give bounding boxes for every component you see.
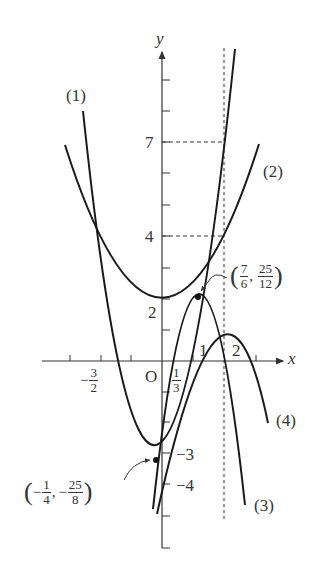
x-axis-label: x <box>288 350 296 367</box>
frac-den: 3 <box>172 381 181 395</box>
frac-num: 25 <box>258 262 273 277</box>
y-tick-label-2: 2 <box>148 304 157 321</box>
frac-den: 4 <box>42 493 51 507</box>
open-paren: ( <box>230 263 239 289</box>
x-tick-sign: − <box>80 373 88 388</box>
frac-den: 2 <box>89 381 98 395</box>
frac-num: 7 <box>240 262 249 277</box>
x-tick-label-1-3: 1 3 <box>171 366 182 394</box>
vertex-3-annotation: ( 7 6 , 25 12 ) <box>230 262 283 290</box>
vertex-1-annotation: ( − 1 4 , − 25 8 ) <box>24 478 93 506</box>
curve-label-1: (1) <box>66 87 86 104</box>
vertex-1-y: 25 8 <box>68 478 83 506</box>
x-tick-fraction: 1 3 <box>172 366 181 394</box>
x-tick-fraction: 3 2 <box>89 366 98 394</box>
frac-den: 12 <box>258 277 273 291</box>
comma: , <box>249 269 253 284</box>
curve-label-3: (3) <box>254 497 274 514</box>
y-tick-label-neg3: −3 <box>176 446 194 463</box>
vertex-3-x: 7 6 <box>240 262 249 290</box>
vertex-3-y: 25 12 <box>258 262 273 290</box>
y-tick-label-7: 7 <box>145 134 154 151</box>
curve-label-4: (4) <box>276 412 296 429</box>
vertex-point-3 <box>195 294 201 300</box>
frac-num: 3 <box>89 366 98 381</box>
close-paren: ) <box>84 479 93 505</box>
x-ticks <box>70 355 256 361</box>
frac-num: 1 <box>42 478 51 493</box>
frac-num: 25 <box>68 478 83 493</box>
close-paren: ) <box>274 263 283 289</box>
curve-label-2: (2) <box>263 163 283 180</box>
x-tick-label-neg-3-2: − 3 2 <box>80 366 99 394</box>
open-paren: ( <box>24 479 33 505</box>
x-tick-label-2: 2 <box>232 342 241 359</box>
frac-den: 8 <box>71 493 80 507</box>
sign: − <box>58 485 66 500</box>
y-tick-label-neg4: −4 <box>176 477 194 494</box>
y-tick-label-4: 4 <box>145 228 154 245</box>
frac-den: 6 <box>240 277 249 291</box>
origin-label: O <box>145 368 157 385</box>
vertex-point-1 <box>153 457 159 463</box>
sign: − <box>33 485 41 500</box>
y-axis-label: y <box>156 30 164 47</box>
x-tick-label-1: 1 <box>199 342 208 359</box>
leader-vertex-1 <box>124 460 150 480</box>
comma: , <box>52 485 56 500</box>
vertex-1-x: 1 4 <box>42 478 51 506</box>
frac-num: 1 <box>172 366 181 381</box>
